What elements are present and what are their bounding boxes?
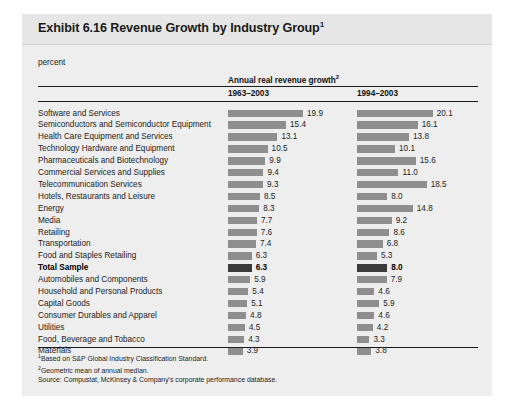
table-row: Telecommunication Services9.318.5	[22, 179, 492, 191]
row-label: Software and Services	[38, 109, 120, 119]
bar	[357, 324, 373, 331]
table-row: Transportation7.46.8	[22, 239, 492, 251]
table-row: Household and Personal Products5.44.6	[22, 286, 492, 298]
bar-value: 10.1	[399, 144, 415, 154]
bar-value: 8.6	[393, 228, 404, 238]
row-label: Energy	[38, 204, 64, 214]
bar-value: 4.2	[377, 323, 388, 333]
bar	[357, 121, 418, 128]
bar-value: 15.4	[290, 120, 306, 130]
bar-value: 4.3	[248, 335, 259, 345]
column-header-1: 1963–2003	[228, 89, 269, 98]
bar-value: 5.4	[252, 287, 263, 297]
column-group-header-text: Annual real revenue growth	[228, 76, 336, 85]
bar	[228, 300, 247, 307]
row-label: Total Sample	[38, 263, 88, 273]
bar	[228, 217, 257, 224]
bar-value: 7.6	[261, 228, 272, 238]
bar	[228, 229, 257, 236]
column-header-2: 1994–2003	[357, 89, 398, 98]
table-row: Hotels, Restaurants and Leisure8.58.0	[22, 191, 492, 203]
bar	[228, 121, 286, 128]
bar-value: 11.0	[402, 168, 417, 178]
footnote-2-text: Geometric mean of annual median.	[41, 367, 149, 374]
bar-value: 6.8	[387, 239, 398, 249]
table-row: Retailing7.68.6	[22, 227, 492, 239]
footnotes: 1Based on S&P Global Industry Classifica…	[38, 352, 478, 385]
bar-value: 13.1	[281, 132, 297, 142]
bar-value: 6.3	[256, 251, 267, 261]
table-row: Semiconductors and Semiconductor Equipme…	[22, 120, 492, 132]
bar-value: 7.4	[260, 239, 271, 249]
bar-value: 19.9	[307, 109, 323, 119]
bar-value: 6.3	[256, 263, 267, 273]
bar-value: 8.0	[391, 263, 402, 273]
bar-value: 14.8	[417, 204, 433, 214]
row-label: Food and Staples Retailing	[38, 251, 136, 261]
column-group-header: Annual real revenue growth2	[228, 74, 339, 85]
bar-value: 5.9	[383, 299, 394, 309]
bar-value: 16.1	[422, 120, 438, 130]
bar	[357, 157, 416, 164]
bar	[357, 193, 387, 200]
row-label: Commercial Services and Supplies	[38, 168, 165, 178]
table-row: Total Sample6.38.0	[22, 263, 492, 275]
bar	[228, 336, 244, 343]
bar-value: 8.3	[263, 204, 274, 214]
bar-value: 7.9	[391, 275, 402, 285]
row-label: Household and Personal Products	[38, 287, 162, 297]
bar	[228, 240, 256, 247]
table-row: Media7.79.2	[22, 215, 492, 227]
bar-value: 5.1	[251, 299, 262, 309]
bar-value: 9.3	[267, 180, 278, 190]
bar	[357, 300, 379, 307]
page-title: Exhibit 6.16 Revenue Growth by Industry …	[38, 20, 324, 35]
row-label: Pharmaceuticals and Biotechnology	[38, 156, 168, 166]
table-row: Technology Hardware and Equipment10.510.…	[22, 144, 492, 156]
table-row: Consumer Durables and Apparel4.84.6	[22, 310, 492, 322]
bar	[228, 324, 245, 331]
table-row: Capital Goods5.15.9	[22, 298, 492, 310]
bar	[228, 169, 263, 176]
bar	[357, 217, 392, 224]
bar	[357, 205, 413, 212]
footer-rule	[38, 347, 478, 348]
table-row: Health Care Equipment and Services13.113…	[22, 132, 492, 144]
bar	[357, 252, 377, 259]
group-footnote-marker: 2	[336, 74, 339, 80]
bar	[228, 264, 252, 271]
bar-value: 4.6	[378, 287, 389, 297]
bar	[228, 193, 260, 200]
bar-value: 10.5	[272, 144, 288, 154]
row-label: Health Care Equipment and Services	[38, 132, 173, 142]
row-label: Utilities	[38, 323, 64, 333]
table-row: Utilities4.54.2	[22, 322, 492, 334]
bar	[357, 312, 374, 319]
exhibit-card: Exhibit 6.16 Revenue Growth by Industry …	[22, 14, 492, 396]
footnote-1: 1Based on S&P Global Industry Classifica…	[38, 352, 478, 364]
row-label: Technology Hardware and Equipment	[38, 144, 175, 154]
bar-value: 5.9	[254, 275, 265, 285]
row-label: Consumer Durables and Apparel	[38, 311, 157, 321]
bar-value: 4.5	[249, 323, 260, 333]
table-row: Automobiles and Components5.97.9	[22, 274, 492, 286]
bar	[357, 169, 398, 176]
bar	[357, 110, 433, 117]
bar-value: 15.6	[420, 156, 436, 166]
bar	[357, 229, 389, 236]
bar-value: 4.8	[250, 311, 261, 321]
bar	[357, 181, 427, 188]
source-note: Source: Compustat, McKinsey & Company's …	[38, 375, 478, 384]
bar	[357, 240, 383, 247]
table-row: Commercial Services and Supplies9.411.0	[22, 167, 492, 179]
bar-value: 20.1	[437, 109, 453, 119]
bar	[357, 133, 409, 140]
bar-value: 8.0	[391, 192, 402, 202]
bar	[228, 133, 277, 140]
row-label: Hotels, Restaurants and Leisure	[38, 192, 155, 202]
bar	[357, 276, 387, 283]
table-row: Energy8.314.8	[22, 203, 492, 215]
row-label: Semiconductors and Semiconductor Equipme…	[38, 120, 211, 130]
bar-value: 4.6	[378, 311, 389, 321]
row-label: Transportation	[38, 239, 91, 249]
